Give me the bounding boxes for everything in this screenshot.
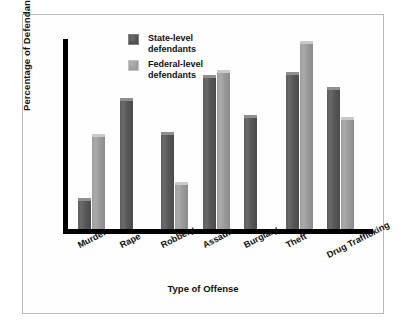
bar-state xyxy=(120,98,133,229)
bar-face xyxy=(161,135,174,229)
bar-group xyxy=(78,39,105,229)
chart-figure: State-level defendants Federal-level def… xyxy=(22,14,384,314)
bar-face xyxy=(120,101,133,229)
bar-face xyxy=(175,185,188,230)
bar-face xyxy=(217,73,230,229)
bar-face xyxy=(327,90,340,230)
bar-federal xyxy=(217,70,230,229)
bar-group xyxy=(203,39,230,229)
plot-area: 80604020100 xyxy=(63,39,363,229)
bar-federal xyxy=(300,41,313,229)
bar-face xyxy=(244,118,257,229)
bar-state xyxy=(161,132,174,229)
x-axis-title: Type of Offense xyxy=(23,283,383,294)
bar-state xyxy=(203,75,216,229)
bar-federal xyxy=(341,117,354,229)
bar-group xyxy=(286,39,313,229)
bar-face xyxy=(78,201,91,229)
bar-face xyxy=(300,44,313,229)
bar-state xyxy=(78,198,91,229)
bar-federal xyxy=(175,182,188,230)
bar-group xyxy=(120,39,147,229)
bar-state xyxy=(286,72,299,229)
bar-state xyxy=(327,87,340,230)
bar-groups xyxy=(68,39,363,229)
bar-group xyxy=(244,39,271,229)
bar-face xyxy=(92,137,105,229)
bar-group xyxy=(327,39,354,229)
bar-face xyxy=(203,78,216,229)
bar-state xyxy=(244,115,257,229)
bar-face xyxy=(341,120,354,229)
bar-federal xyxy=(92,134,105,229)
y-axis-title: Percentage of Defendants Released xyxy=(21,0,32,111)
bar-group xyxy=(161,39,188,229)
bar-face xyxy=(286,75,299,229)
